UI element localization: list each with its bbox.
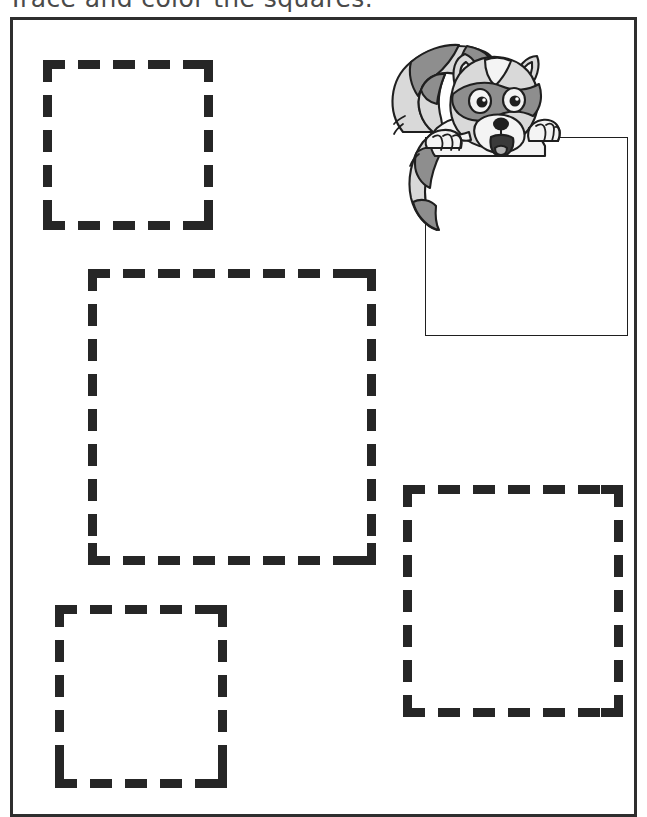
square-corner-br2 (204, 208, 213, 230)
square-edge-left (55, 605, 64, 788)
square-corner-br2 (218, 766, 227, 788)
square-corner-tr2 (204, 60, 213, 82)
trace-square-center-large[interactable] (88, 269, 376, 565)
square-corner-tl2 (55, 605, 64, 627)
square-corner-tr2 (218, 605, 227, 627)
square-corner-bl2 (55, 766, 64, 788)
square-corner-br2 (614, 695, 623, 717)
square-corner-tl2 (403, 485, 412, 507)
square-edge-bottom (43, 221, 213, 230)
square-corner-bl2 (403, 695, 412, 717)
square-corner-tl2 (88, 269, 97, 291)
square-edge-right (218, 605, 227, 788)
trace-square-bottom-left[interactable] (55, 605, 227, 788)
square-corner-bl2 (88, 543, 97, 565)
square-edge-right (204, 60, 213, 230)
square-edge-left (43, 60, 52, 230)
square-edge-bottom (403, 708, 623, 717)
square-edge-bottom (55, 779, 227, 788)
square-edge-top (88, 269, 376, 278)
square-corner-tr2 (614, 485, 623, 507)
square-edge-left (403, 485, 412, 717)
square-edge-top (403, 485, 623, 494)
square-edge-left (88, 269, 97, 565)
trace-square-bottom-right[interactable] (403, 485, 623, 717)
trace-square-top-left[interactable] (43, 60, 213, 230)
raccoon-blank-sign (425, 137, 628, 336)
square-corner-bl2 (43, 208, 52, 230)
square-corner-br2 (367, 543, 376, 565)
square-edge-top (43, 60, 213, 69)
page-title: Trace and color the squares. (8, 0, 373, 13)
square-edge-right (614, 485, 623, 717)
square-edge-bottom (88, 556, 376, 565)
square-corner-tr2 (367, 269, 376, 291)
square-edge-top (55, 605, 227, 614)
square-edge-right (367, 269, 376, 565)
square-corner-tl2 (43, 60, 52, 82)
